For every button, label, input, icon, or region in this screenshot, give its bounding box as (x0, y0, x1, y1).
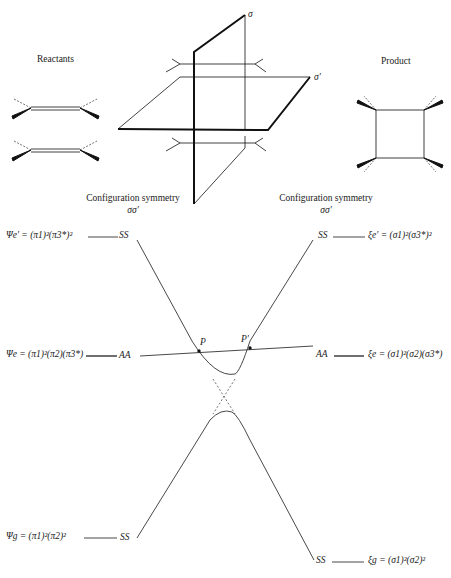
correlation-lines (84, 237, 365, 562)
left-symmetry-ops: σσ′ (80, 205, 186, 215)
right-symmetry-ops: σσ′ (273, 205, 379, 215)
left-state-psi-e-formula: Ψe = (π1)²(π2)(π3*) (6, 349, 83, 359)
left-state-psi-e-prime-formula: Ψe′ = (π1)²(π3*)² (6, 230, 72, 240)
left-state-psi-g-symmetry: SS (120, 532, 130, 542)
right-state-xi-g-formula: ξg = (σ1)²(σ2)² (368, 555, 425, 565)
reactant-ethylene-2 (12, 141, 99, 161)
right-symmetry-title: Configuration symmetry (273, 193, 379, 203)
crossing-point-p-prime (248, 346, 251, 349)
right-state-xi-e-formula: ξe = (σ1)²(σ2)(σ3*) (368, 349, 442, 359)
right-state-xi-e-prime-formula: ξe′ = (σ1)²(σ3*)² (368, 230, 432, 240)
left-state-psi-e-prime-symmetry: SS (119, 230, 129, 240)
reactants-label: Reactants (37, 54, 74, 64)
right-state-xi-e-symmetry: AA (316, 349, 328, 359)
left-symmetry-title: Configuration symmetry (80, 193, 186, 203)
left-state-psi-g-formula: Ψg = (π1)²(π2)² (6, 531, 66, 541)
product-cyclobutane (357, 96, 443, 172)
crossing-label-p-prime: P′ (241, 334, 249, 344)
plane-sigma-label: σ (248, 9, 253, 19)
symmetry-planes (118, 15, 310, 204)
reactant-ethylene-1 (12, 99, 99, 119)
right-state-xi-g-symmetry: SS (316, 555, 326, 565)
left-state-psi-e-symmetry: AA (119, 350, 131, 360)
right-state-xi-e-prime-symmetry: SS (318, 230, 328, 240)
crossing-label-p: P (200, 337, 206, 347)
correlation-diagram-graphics (0, 0, 451, 578)
plane-sigma-prime-label: σ′ (314, 72, 321, 82)
crossing-point-p (197, 349, 200, 352)
product-label: Product (381, 56, 411, 66)
